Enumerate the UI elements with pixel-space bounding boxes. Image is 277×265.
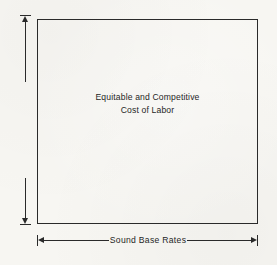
horizontal-axis-label: Sound Base Rates <box>109 234 187 247</box>
horizontal-dimension-arrow: Sound Base Rates <box>37 240 258 241</box>
horizontal-arrow-right-segment <box>187 240 251 241</box>
vertical-axis-label: Fair Labor Standards <box>0 70 82 162</box>
diagram-canvas: Equitable and Competitive Cost of Labor … <box>0 0 277 265</box>
horizontal-arrow-right-cap <box>257 235 258 246</box>
horizontal-arrow-left-segment <box>44 240 109 241</box>
vertical-arrow-lower-segment <box>25 178 26 218</box>
vertical-arrow-bottom-cap <box>20 224 31 225</box>
